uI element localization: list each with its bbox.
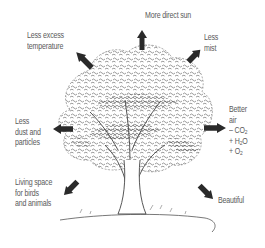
ground [60, 214, 215, 232]
label-h2o: + H2O [229, 136, 248, 147]
arrow-down-left-icon [60, 178, 81, 199]
arrow-down-right-icon [196, 182, 217, 203]
label-line: mist [204, 43, 218, 54]
label-line: temperature [27, 41, 64, 52]
label-line: Less excess [27, 30, 64, 41]
label-living-space: Living space for birds and animals [15, 177, 52, 209]
label-o2: + O2 [229, 146, 248, 157]
label-more-direct-sun: More direct sun [145, 10, 191, 21]
label-less-mist: Less mist [204, 32, 218, 53]
label-co2: – CO2 [229, 125, 248, 136]
label-text: Beautiful [218, 195, 244, 206]
canopy [59, 45, 213, 172]
label-text: More direct sun [145, 10, 191, 21]
label-line: and animals [15, 198, 52, 209]
label-line: particles [15, 137, 41, 148]
label-beautiful: Beautiful [218, 195, 244, 206]
label-line: for birds [15, 188, 52, 199]
label-line: air [229, 115, 248, 126]
label-line: Less [15, 116, 41, 127]
label-line: dust and [15, 127, 41, 138]
label-better-air: Better air – CO2 + H2O + O2 [229, 104, 248, 157]
label-line: Less [204, 32, 218, 43]
label-less-excess-temperature: Less excess temperature [27, 30, 64, 51]
label-less-dust-and-particles: Less dust and particles [15, 116, 41, 148]
label-line: Better [229, 104, 248, 115]
label-line: Living space [15, 177, 52, 188]
